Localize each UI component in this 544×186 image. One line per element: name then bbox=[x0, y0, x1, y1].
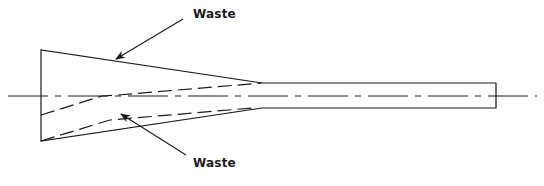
waste-label-bottom: Waste bbox=[193, 156, 236, 170]
waste-label-top: Waste bbox=[193, 7, 236, 21]
arrow-waste-top bbox=[116, 19, 183, 59]
taper-diagram bbox=[0, 0, 544, 186]
arrow-waste-bottom bbox=[121, 114, 186, 155]
